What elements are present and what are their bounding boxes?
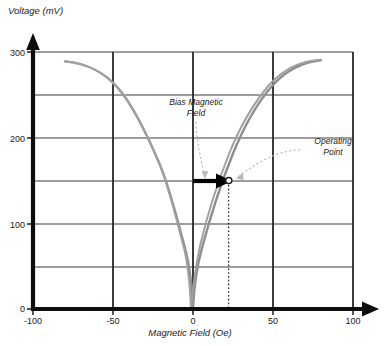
operating-point-label-line1: Operating <box>314 136 352 146</box>
chart-figure: 300 200 100 0 -100 -50 0 50 100 Voltage … <box>0 0 388 346</box>
y-tick-label-200: 200 <box>10 134 25 144</box>
x-tick-label-0: 0 <box>190 316 195 326</box>
y-axis-arrowhead <box>26 33 40 50</box>
y-axis-title: Voltage (mV) <box>8 5 63 16</box>
x-tick-label-minus100: -100 <box>24 316 42 326</box>
y-tick-label-0: 0 <box>20 304 25 314</box>
operating-point-marker <box>226 178 232 184</box>
x-tick-label-minus50: -50 <box>106 316 119 326</box>
x-tick-label-50: 50 <box>268 316 278 326</box>
x-tick-label-100: 100 <box>345 316 360 326</box>
y-tick-label-100: 100 <box>10 220 25 230</box>
bias-magnetic-field-label-line1: Bias Magnetic <box>169 97 223 107</box>
x-axis-title: Magnetic Field (Oe) <box>148 327 231 338</box>
x-axis-arrowhead <box>362 302 379 317</box>
operating-point-label-line2: Point <box>323 147 343 157</box>
bias-magnetic-field-label-line2: Field <box>187 108 206 118</box>
magnetoresistive-transfer-curve-chart: 300 200 100 0 -100 -50 0 50 100 Voltage … <box>0 0 388 346</box>
y-tick-label-300: 300 <box>10 48 25 58</box>
